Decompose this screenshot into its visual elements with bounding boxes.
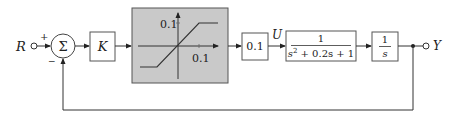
plant-numerator: 1	[318, 33, 324, 44]
gain-block-0-1: 0.1	[242, 33, 268, 60]
integrator-block: 1 s	[372, 32, 398, 61]
gain-block-k: K	[90, 32, 115, 61]
plant-denominator: s2 + 0.2s + 1	[288, 47, 354, 59]
input-label-r: R	[15, 39, 26, 54]
summing-junction: Σ	[51, 34, 75, 58]
sat-y-tick-label: 0.1	[160, 18, 178, 31]
saturation-block: 0.1 0.1	[132, 8, 228, 83]
minus-sign: −	[48, 56, 56, 66]
block-diagram: R + Σ − K 0.1 0.1 0.1 U 1 s	[0, 0, 460, 114]
sigma-symbol: Σ	[58, 39, 67, 54]
plus-sign: +	[40, 31, 48, 42]
output-terminal	[423, 43, 429, 49]
integrator-denominator: s	[382, 48, 387, 59]
output-label-y: Y	[433, 39, 442, 53]
plant-transfer-function-block: 1 s2 + 0.2s + 1	[286, 31, 356, 61]
sat-x-tick-label: 0.1	[192, 52, 210, 65]
gain-0-1-label: 0.1	[246, 40, 264, 53]
signal-u-label: U	[272, 28, 283, 42]
gain-k-label: K	[97, 39, 109, 54]
integrator-numerator: 1	[382, 34, 388, 45]
input-terminal	[31, 43, 37, 49]
